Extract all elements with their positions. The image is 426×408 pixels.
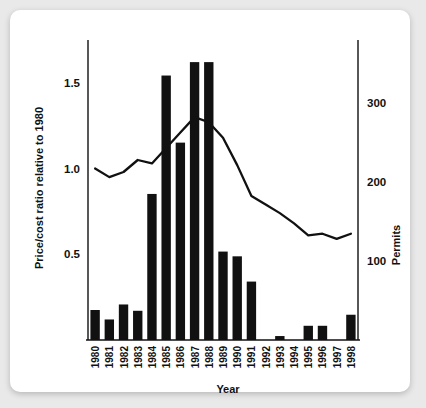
x-axis-tick: 1993 bbox=[275, 346, 286, 369]
y-axis-right-tick: 100 bbox=[367, 255, 386, 267]
x-axis-tick: 1985 bbox=[161, 346, 172, 369]
bar bbox=[190, 62, 199, 340]
y-axis-right-tick-labels: 300200100 bbox=[367, 97, 386, 267]
x-axis-tick: 1992 bbox=[261, 346, 272, 369]
bar bbox=[119, 304, 128, 340]
bar bbox=[90, 310, 99, 340]
y-axis-left-tick: 1.5 bbox=[64, 77, 81, 89]
x-axis-tick: 1996 bbox=[317, 346, 328, 369]
x-axis-tick: 1994 bbox=[289, 346, 300, 369]
x-axis-tick-labels: 1980198119821983198419851986198719881989… bbox=[90, 346, 357, 369]
bar bbox=[346, 315, 355, 340]
x-axis-tick: 1990 bbox=[232, 346, 243, 369]
x-axis-tick: 1986 bbox=[175, 346, 186, 369]
y-axis-left-title: Price/cost ratio relative to 1980 bbox=[33, 107, 45, 269]
x-axis-tick: 1982 bbox=[119, 346, 130, 369]
bar bbox=[105, 319, 114, 340]
bar bbox=[304, 326, 313, 340]
x-axis-title: Year bbox=[216, 383, 240, 395]
y-axis-left-tick-labels: 1.51.00.5 bbox=[64, 77, 81, 260]
x-axis-tick: 1995 bbox=[303, 346, 314, 369]
y-axis-left-tick: 1.0 bbox=[64, 163, 80, 175]
bar bbox=[318, 326, 327, 340]
x-axis-tick: 1984 bbox=[147, 346, 158, 369]
chart-figure: 1.51.00.5 300200100 19801981198219831984… bbox=[0, 0, 426, 408]
y-axis-left-tick: 0.5 bbox=[64, 248, 81, 260]
x-axis-tick: 1983 bbox=[133, 346, 144, 369]
x-axis-tick: 1987 bbox=[190, 346, 201, 369]
x-axis-tick: 1991 bbox=[246, 346, 257, 369]
x-axis-tick: 1980 bbox=[90, 346, 101, 369]
y-axis-right-title: Permits bbox=[390, 225, 402, 265]
bar bbox=[233, 256, 242, 340]
bar bbox=[133, 311, 142, 340]
bar bbox=[218, 252, 227, 340]
y-axis-right-tick: 200 bbox=[367, 176, 386, 188]
bar bbox=[161, 76, 170, 340]
bar bbox=[147, 194, 156, 340]
line-series bbox=[95, 117, 351, 239]
bar bbox=[247, 282, 256, 340]
y-axis-right-tick: 300 bbox=[367, 97, 386, 109]
x-axis-tick: 1997 bbox=[332, 346, 343, 369]
bar-series bbox=[90, 62, 355, 340]
bar bbox=[204, 62, 213, 340]
x-axis-tick: 1981 bbox=[104, 346, 115, 369]
x-axis-tick: 1998 bbox=[346, 346, 357, 369]
x-axis-tick: 1988 bbox=[204, 346, 215, 369]
x-axis-tick: 1989 bbox=[218, 346, 229, 369]
bar bbox=[176, 143, 185, 340]
